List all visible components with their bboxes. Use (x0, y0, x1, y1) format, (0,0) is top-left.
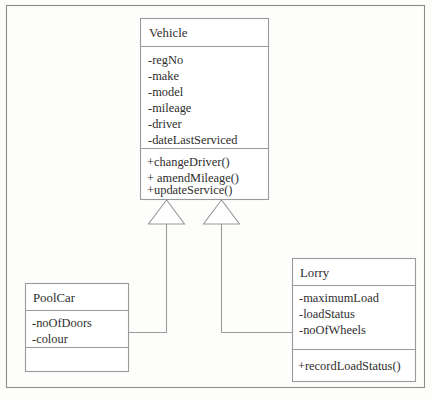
generalization-line-lorry (222, 224, 293, 333)
vehicle-attribute: -regNo (148, 53, 183, 67)
generalization-poolcar[interactable] (129, 200, 185, 333)
vehicle-attribute: -model (148, 85, 184, 99)
generalization-lorry[interactable] (204, 200, 293, 333)
vehicle-attribute: -make (148, 69, 179, 83)
hollow-triangle-arrowhead-poolcar (149, 200, 185, 224)
generalization-line-poolcar (129, 224, 167, 333)
lorry-attribute: -loadStatus (299, 307, 355, 321)
class-box-poolcar[interactable]: PoolCar -noOfDoors -colour (26, 284, 129, 372)
lorry-attribute: -maximumLoad (299, 291, 380, 305)
lorry-operation: +recordLoadStatus() (298, 359, 401, 373)
poolcar-attribute: -noOfDoors (32, 316, 92, 330)
lorry-class-name: Lorry (300, 266, 330, 280)
poolcar-class-name: PoolCar (33, 291, 76, 305)
poolcar-attribute: -colour (32, 332, 69, 346)
vehicle-operation: +changeDriver() (147, 155, 230, 169)
vehicle-operation: +updateService() (147, 183, 232, 197)
vehicle-class-name: Vehicle (149, 26, 188, 40)
class-diagram-canvas: Vehicle -regNo -make -model -mileage -dr… (0, 0, 432, 400)
vehicle-attribute: -driver (148, 117, 183, 131)
vehicle-attribute: -dateLastServiced (148, 133, 238, 147)
vehicle-attribute: -mileage (148, 101, 192, 115)
class-box-vehicle[interactable]: Vehicle -regNo -make -model -mileage -dr… (141, 19, 269, 200)
hollow-triangle-arrowhead-lorry (204, 200, 240, 224)
lorry-attribute: -noOfWheels (299, 323, 366, 337)
class-box-lorry[interactable]: Lorry -maximumLoad -loadStatus -noOfWhee… (293, 259, 416, 382)
uml-diagram-page: Vehicle -regNo -make -model -mileage -dr… (0, 0, 432, 400)
